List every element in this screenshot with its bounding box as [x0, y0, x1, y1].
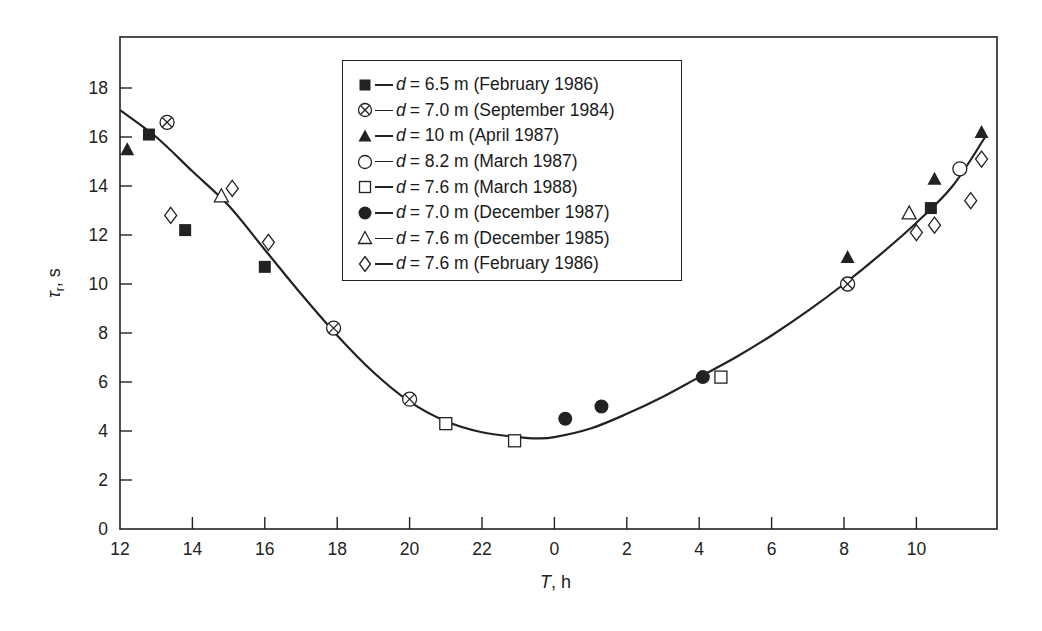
y-tick-label: 12	[89, 225, 108, 245]
x-tick-label: 18	[327, 539, 346, 559]
legend-variable: d	[396, 74, 406, 95]
legend-label: = 8.2 m (March 1987)	[410, 151, 578, 172]
open-diamond-icon	[976, 151, 988, 167]
y-axis-title: τr, s	[44, 268, 67, 298]
y-tick-label: 10	[89, 274, 109, 294]
legend-label: = 7.6 m (December 1985)	[410, 228, 610, 249]
filled-triangle-icon	[928, 172, 942, 185]
x-tick-label: 4	[694, 539, 704, 559]
legend-dash	[375, 135, 393, 137]
legend-item: d= 7.6 m (December 1985)	[357, 226, 681, 252]
legend-dash	[375, 110, 393, 112]
crossed-circle-icon	[403, 392, 417, 406]
legend-label: = 10 m (April 1987)	[410, 125, 559, 146]
legend-dash	[375, 238, 393, 240]
open-diamond-icon	[965, 193, 977, 209]
x-axis-title: T, h	[540, 572, 571, 592]
open-triangle-icon	[214, 189, 228, 202]
open-square-icon	[440, 418, 452, 430]
legend: d= 6.5 m (February 1986) d= 7.0 m (Septe…	[342, 60, 682, 281]
x-tick-label: 6	[767, 539, 777, 559]
legend-dash	[375, 186, 393, 188]
legend-label: = 7.6 m (February 1986)	[410, 253, 599, 274]
legend-item: d= 7.0 m (December 1987)	[357, 200, 681, 226]
x-tick-label: 14	[183, 539, 203, 559]
open-square-icon	[509, 435, 521, 447]
legend-variable: d	[396, 151, 406, 172]
filled-square-icon	[143, 129, 155, 141]
legend-variable: d	[396, 177, 406, 198]
legend-item: d= 7.6 m (February 1986)	[357, 251, 681, 277]
crossed-circle-icon	[841, 277, 855, 291]
y-tick-label: 18	[89, 78, 108, 98]
legend-dash	[375, 263, 393, 265]
filled-circle-icon	[357, 205, 373, 221]
legend-label: = 7.6 m (March 1988)	[410, 177, 578, 198]
open-diamond-icon	[226, 180, 238, 196]
open-diamond-icon	[929, 217, 941, 233]
legend-label: = 6.5 m (February 1986)	[410, 74, 599, 95]
y-tick-label: 14	[89, 176, 109, 196]
open-circle-icon	[357, 154, 373, 170]
filled-square-icon	[357, 77, 373, 93]
y-tick-label: 2	[98, 470, 108, 490]
y-tick-label: 16	[89, 127, 108, 147]
filled-circle-icon	[696, 370, 710, 384]
filled-square-icon	[179, 224, 191, 236]
y-tick-label: 6	[98, 372, 108, 392]
legend-variable: d	[396, 253, 406, 274]
legend-variable: d	[396, 100, 406, 121]
legend-variable: d	[396, 125, 406, 146]
filled-triangle-icon	[120, 142, 134, 155]
legend-item: d= 7.0 m (September 1984)	[357, 98, 681, 124]
x-tick-label: 16	[255, 539, 274, 559]
open-circle-icon	[953, 162, 967, 176]
filled-square-icon	[925, 202, 937, 214]
legend-item: d= 8.2 m (March 1987)	[357, 149, 681, 175]
x-tick-label: 12	[110, 539, 129, 559]
filled-triangle-icon	[841, 250, 855, 263]
crossed-circle-icon	[160, 115, 174, 129]
filled-triangle-icon	[975, 125, 989, 138]
legend-item: d= 6.5 m (February 1986)	[357, 72, 681, 98]
y-tick-label: 8	[98, 323, 108, 343]
filled-circle-icon	[558, 412, 572, 426]
legend-label: = 7.0 m (September 1984)	[410, 100, 615, 121]
x-tick-label: 8	[839, 539, 849, 559]
open-diamond-icon	[357, 256, 373, 272]
open-diamond-icon	[165, 207, 177, 223]
legend-variable: d	[396, 202, 406, 223]
legend-item: d= 7.6 m (March 1988)	[357, 174, 681, 200]
legend-variable: d	[396, 228, 406, 249]
legend-dash	[375, 212, 393, 214]
open-square-icon	[357, 179, 373, 195]
filled-circle-icon	[594, 400, 608, 414]
open-triangle-icon	[357, 230, 373, 246]
x-tick-label: 10	[907, 539, 927, 559]
legend-label: = 7.0 m (December 1987)	[410, 202, 610, 223]
x-tick-label: 2	[622, 539, 632, 559]
filled-square-icon	[259, 261, 271, 273]
open-triangle-icon	[902, 206, 916, 219]
legend-dash	[375, 84, 393, 86]
legend-item: d= 10 m (April 1987)	[357, 123, 681, 149]
crossed-circle-icon	[327, 321, 341, 335]
crossed-circle-icon	[357, 102, 373, 118]
x-tick-label: 0	[550, 539, 560, 559]
y-tick-label: 0	[98, 519, 108, 539]
x-tick-label: 20	[400, 539, 420, 559]
filled-triangle-icon	[357, 128, 373, 144]
legend-dash	[375, 161, 393, 163]
x-tick-label: 22	[472, 539, 491, 559]
y-tick-label: 4	[98, 421, 108, 441]
open-square-icon	[715, 371, 727, 383]
